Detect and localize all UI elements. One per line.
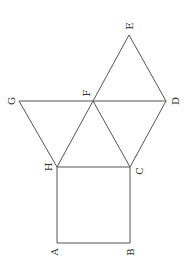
segment-hg — [19, 101, 57, 167]
label-h: H — [43, 162, 54, 171]
label-d: D — [170, 97, 181, 105]
segment-de — [129, 35, 166, 101]
label-f: F — [81, 89, 92, 96]
label-e: E — [124, 22, 135, 29]
geometry-diagram: A B C H F G D E — [0, 0, 196, 257]
label-a: A — [49, 248, 60, 257]
segment-cd — [130, 101, 166, 167]
segment-hf — [57, 101, 93, 167]
label-g: G — [6, 97, 17, 105]
square-abch — [57, 167, 130, 243]
segment-cf — [93, 101, 130, 167]
label-c: C — [134, 167, 145, 175]
label-b: B — [125, 248, 136, 255]
segment-fe — [93, 35, 129, 101]
